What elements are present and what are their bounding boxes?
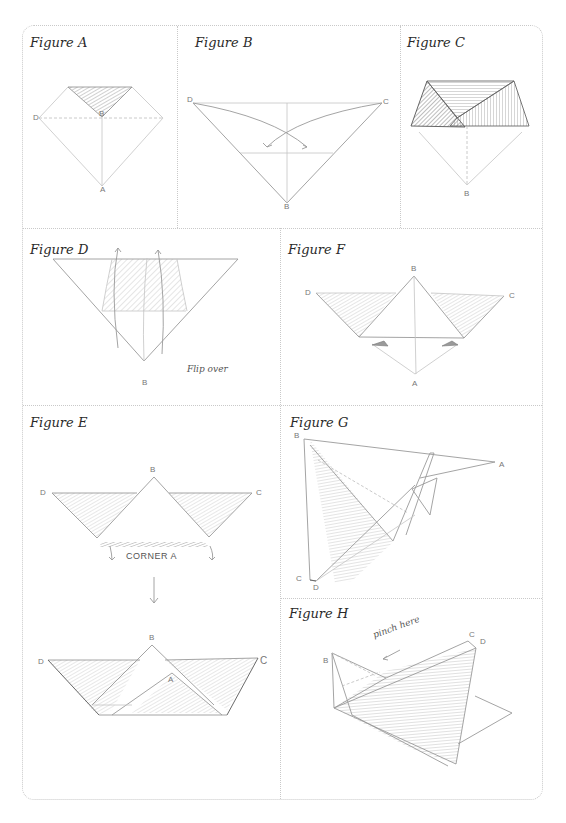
figure-d-drawing (22, 228, 280, 405)
point-label: A (412, 379, 417, 388)
point-label: B (142, 378, 147, 387)
point-label: D (480, 637, 486, 646)
point-label: D (33, 113, 39, 122)
figure-b: Figure B D C B (177, 25, 400, 228)
figure-h-drawing (280, 598, 543, 800)
point-label: B (411, 264, 416, 273)
point-label: C (469, 630, 475, 639)
point-label: B (323, 656, 328, 665)
point-label: B (294, 431, 299, 440)
figure-g-drawing (280, 405, 543, 598)
point-label: B (99, 109, 104, 118)
point-label: A (168, 675, 173, 684)
figure-c: Figure C B (400, 25, 543, 228)
figure-a-drawing (22, 25, 177, 228)
figure-f: Figure F B D C A (280, 228, 543, 405)
point-label: B (464, 189, 469, 198)
point-label: C (260, 655, 267, 666)
point-label: D (187, 95, 193, 104)
point-label: D (313, 583, 319, 592)
instruction-note: Flip over (187, 364, 228, 374)
figure-b-drawing (177, 25, 400, 228)
point-label: D (305, 288, 311, 297)
point-label: A (100, 185, 105, 194)
figure-e: Figure E B D (22, 405, 280, 800)
figure-d: Figure D Flip over B (22, 228, 280, 405)
point-label: C (256, 488, 262, 497)
figure-a: Figure A D B A (22, 25, 177, 228)
point-label: D (38, 657, 44, 666)
point-label: A (499, 460, 504, 469)
point-label: C (383, 97, 389, 106)
instruction-note: CORNER A (126, 551, 177, 561)
point-label: C (509, 291, 515, 300)
point-label: B (149, 633, 154, 642)
point-label: D (40, 488, 46, 497)
figure-c-drawing (400, 25, 543, 228)
point-label: B (150, 465, 155, 474)
figure-h: Figure H pinch here B C D (280, 598, 543, 800)
figure-g: Figure G B A C D (280, 405, 543, 598)
point-label: C (296, 574, 302, 583)
point-label: B (284, 202, 289, 211)
